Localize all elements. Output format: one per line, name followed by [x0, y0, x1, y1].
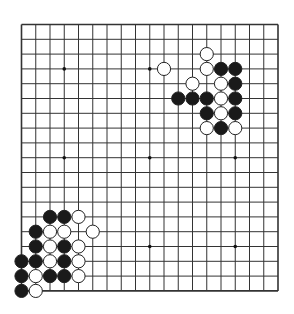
star-point [62, 67, 66, 71]
white-stone [86, 225, 99, 238]
black-stone [186, 92, 199, 105]
black-stone [229, 92, 242, 105]
white-stone [214, 92, 227, 105]
star-point [148, 245, 152, 249]
black-stone [29, 240, 42, 253]
star-point [233, 245, 237, 249]
white-stone [214, 107, 227, 120]
white-stone [214, 77, 227, 90]
go-board[interactable] [0, 0, 294, 314]
white-stone [229, 122, 242, 135]
black-stone [229, 62, 242, 75]
black-stone [172, 92, 185, 105]
white-stone [72, 270, 85, 283]
white-stone [72, 255, 85, 268]
black-stone [15, 284, 28, 297]
white-stone [58, 225, 71, 238]
star-point [148, 156, 152, 160]
black-stone [58, 240, 71, 253]
star-point [62, 156, 66, 160]
white-stone [72, 240, 85, 253]
white-stone [200, 122, 213, 135]
white-stone [157, 62, 170, 75]
black-stone [29, 255, 42, 268]
black-stone [15, 255, 28, 268]
black-stone [43, 270, 56, 283]
star-point [233, 156, 237, 160]
black-stone [229, 77, 242, 90]
white-stone [43, 255, 56, 268]
white-stone [72, 210, 85, 223]
white-stone [186, 77, 199, 90]
black-stone [43, 210, 56, 223]
black-stone [15, 270, 28, 283]
black-stone [58, 270, 71, 283]
white-stone [43, 225, 56, 238]
star-point [148, 67, 152, 71]
black-stone [214, 122, 227, 135]
white-stone [29, 284, 42, 297]
black-stone [58, 210, 71, 223]
black-stone [200, 107, 213, 120]
black-stone [229, 107, 242, 120]
black-stone [214, 62, 227, 75]
white-stone [200, 62, 213, 75]
black-stone [29, 225, 42, 238]
white-stone [200, 48, 213, 61]
black-stone [58, 255, 71, 268]
white-stone [43, 240, 56, 253]
white-stone [29, 270, 42, 283]
black-stone [200, 92, 213, 105]
